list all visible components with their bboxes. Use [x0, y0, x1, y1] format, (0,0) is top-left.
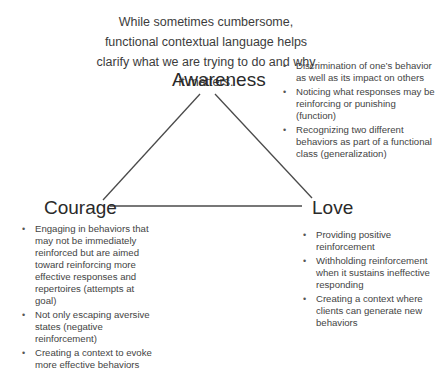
awareness-bullet-list: Discrimination of one’s behavior as well… — [280, 60, 436, 162]
courage-bullet-list: Engaging in behaviors that may not be im… — [19, 223, 155, 372]
list-item: Creating a context where clients can gen… — [316, 293, 434, 329]
list-item: Recognizing two different behaviors as p… — [296, 124, 436, 160]
list-item: Noticing what responses may be reinforci… — [296, 86, 436, 122]
love-bullet-list: Providing positive reinforcement Withhol… — [300, 229, 434, 331]
list-item: Discrimination of one’s behavior as well… — [296, 60, 436, 84]
node-label-courage: Courage — [44, 197, 117, 219]
edge-awareness-courage — [103, 94, 200, 200]
node-label-awareness: Awareness — [172, 69, 266, 91]
list-item: Creating a context to evoke more effecti… — [35, 347, 155, 371]
list-item: Withholding reinforcement when it sustai… — [316, 255, 434, 291]
list-item: Not only escaping aversive states (negat… — [35, 309, 155, 345]
list-item: Providing positive reinforcement — [316, 229, 434, 253]
node-label-love: Love — [312, 197, 353, 219]
list-item: Engaging in behaviors that may not be im… — [35, 223, 155, 307]
